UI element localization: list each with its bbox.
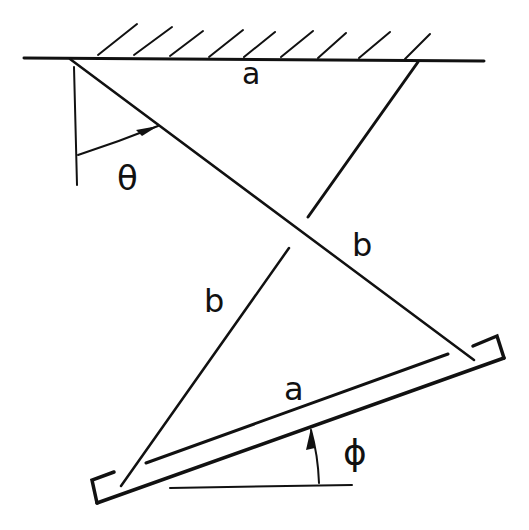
linkage-diagram: θ a b b a ϕ <box>0 0 529 530</box>
plate-right-bracket <box>473 336 504 358</box>
top-link-label: a <box>242 56 260 91</box>
diagonal-bar-b <box>70 59 474 360</box>
right-bar-label: b <box>352 226 372 264</box>
phi-label: ϕ <box>343 432 367 473</box>
theta-label: θ <box>117 158 138 198</box>
horizontal-reference-line <box>170 485 352 488</box>
left-bar-label: b <box>204 282 224 320</box>
ceiling-hatching <box>98 24 430 59</box>
bottom-link-label: a <box>284 370 304 408</box>
vertical-reference-line <box>74 67 77 185</box>
crossing-bar-upper-segment <box>308 62 418 217</box>
theta-arrowhead-icon <box>136 126 158 136</box>
bottom-plate <box>92 336 504 503</box>
